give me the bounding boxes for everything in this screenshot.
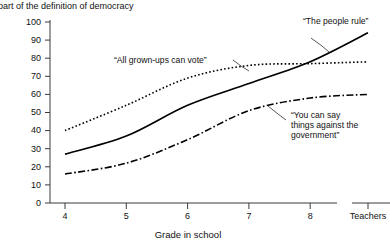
y-axis-tick-label: 20 — [31, 162, 41, 172]
y-axis-tick-label: 30 — [31, 144, 41, 154]
chart-subtitle: part of the definition of democracy — [0, 1, 134, 11]
x-axis-label-teachers: Teachers — [350, 211, 387, 221]
y-axis-tick-label: 100 — [26, 17, 41, 27]
x-axis-tick-labels: 45678 — [62, 211, 312, 221]
y-axis-tick-labels: 0102030405060708090100 — [26, 17, 41, 208]
y-axis-tick-label: 80 — [31, 53, 41, 63]
leader-say-things — [268, 106, 286, 120]
leader-people-rule — [311, 38, 329, 52]
line-chart: part of the definition of democracy 0102… — [0, 0, 390, 243]
chart-container: part of the definition of democracy 0102… — [0, 0, 390, 243]
y-axis-tick-label: 90 — [31, 35, 41, 45]
annotation-all-grown-ups-can-vote: “All grown-ups can vote” — [114, 55, 207, 65]
annotation-say-things-line-2: things against the — [291, 120, 359, 130]
annotation-say-things-line-3: government” — [291, 130, 339, 140]
x-axis-tick-label: 8 — [308, 211, 313, 221]
x-axis-title: Grade in school — [155, 229, 222, 240]
annotation-say-things-line-1: “You can say — [291, 110, 341, 120]
y-axis-tick-label: 70 — [31, 71, 41, 81]
y-axis-ticks — [45, 22, 50, 203]
x-axis-tick-label: 4 — [62, 211, 67, 221]
leader-grown-ups — [233, 60, 249, 71]
annotation-the-people-rule: “The people rule” — [303, 16, 369, 26]
x-axis-tick-label: 5 — [124, 211, 129, 221]
y-axis-tick-label: 10 — [31, 180, 41, 190]
y-axis-tick-label: 50 — [31, 107, 41, 117]
x-axis-tick-label: 7 — [246, 211, 251, 221]
y-axis-tick-label: 40 — [31, 125, 41, 135]
y-axis-tick-label: 0 — [36, 198, 41, 208]
x-axis-ticks — [65, 203, 368, 209]
y-axis-tick-label: 60 — [31, 89, 41, 99]
x-axis-tick-label: 6 — [185, 211, 190, 221]
